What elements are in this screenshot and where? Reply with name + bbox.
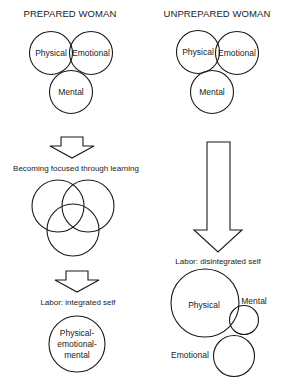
unprepared-title: UNPREPARED WOMAN [164,8,271,19]
down-arrow-icon [55,271,99,292]
prepared-title: PREPARED WOMAN [23,8,116,19]
integrated-label-line1: Physical- [60,328,95,338]
disintegrated-mental-label: Mental [241,296,267,306]
unprepared-physical-label: Physical [182,47,214,57]
unprepared-woman-column: UNPREPARED WOMAN Physical Emotional Ment… [164,8,271,377]
venn-circle-left [32,180,84,232]
prepared-emotional-label: Emotional [72,48,110,58]
integrated-label-line2: emotional- [57,339,97,349]
disintegrated-physical-label: Physical [188,300,220,310]
unprepared-initial-circles: Physical Emotional Mental [177,31,259,114]
unprepared-emotional-label: Emotional [218,48,256,58]
integrated-caption: Labor: integrated self [40,298,116,307]
down-arrow-icon [50,137,94,158]
integrated-self: Physical- emotional- mental [49,316,105,372]
prepared-mental-label: Mental [58,87,84,97]
learning-caption: Becoming focused through learning [13,164,139,173]
prepared-initial-circles: Physical Emotional Mental [30,32,113,114]
venn-circle-bottom [47,204,99,256]
diagram-canvas: PREPARED WOMAN Physical Emotional Mental… [0,0,282,381]
disintegrated-self: Physical Mental Emotional [171,269,267,377]
disintegrated-emotional-circle [214,336,255,377]
prepared-woman-column: PREPARED WOMAN Physical Emotional Mental… [13,8,139,372]
prepared-physical-label: Physical [35,48,67,58]
disintegrated-caption: Labor: disintegrated self [175,257,261,266]
unprepared-mental-label: Mental [199,87,225,97]
focused-venn [32,180,114,256]
venn-circle-right [62,180,114,232]
disintegrated-emotional-label: Emotional [171,350,209,360]
integrated-label-line3: mental [64,350,90,360]
long-down-arrow-icon [194,142,242,252]
